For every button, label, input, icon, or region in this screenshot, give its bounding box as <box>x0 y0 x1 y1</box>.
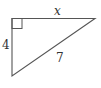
right-angle-marker <box>12 19 22 29</box>
label-top-side: x <box>54 4 61 18</box>
right-triangle <box>12 19 95 77</box>
label-hypotenuse: 7 <box>56 51 64 65</box>
label-left-side: 4 <box>2 38 10 52</box>
triangle-diagram: x 4 7 <box>0 0 101 88</box>
